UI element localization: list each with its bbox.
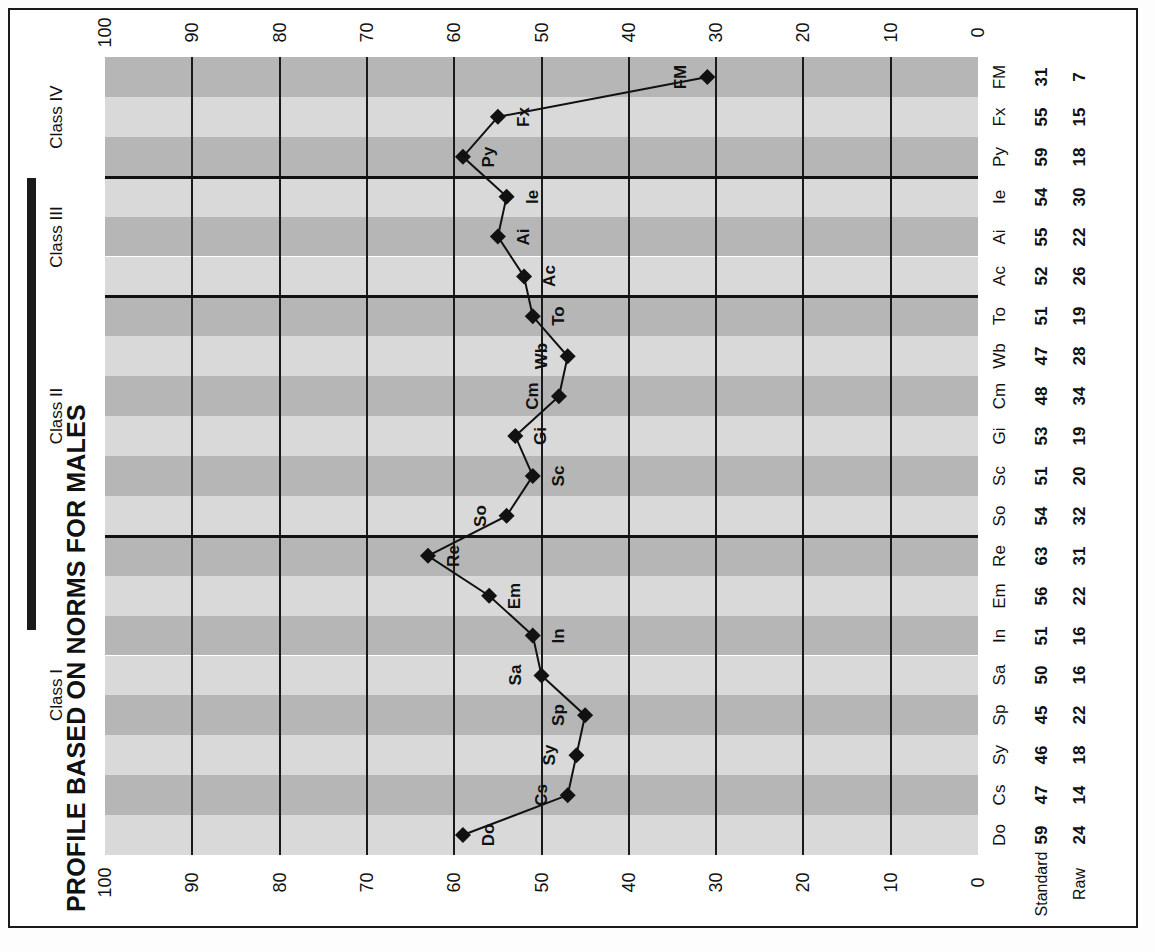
class-label-class-iii: Class III — [47, 202, 67, 272]
axis-tick-20: 20 — [793, 13, 814, 53]
point-label-fm: FM — [671, 63, 691, 91]
scale-raw-fx: 15 — [1070, 97, 1090, 137]
scale-std-in: 51 — [1032, 616, 1052, 656]
scale-raw-ac: 26 — [1070, 256, 1090, 296]
axis-tick-80: 80 — [269, 13, 290, 53]
page-title: PROFILE BASED ON NORMS FOR MALES — [62, 442, 102, 912]
scale-name-cm: Cm — [990, 376, 1010, 416]
scale-std-so: 54 — [1032, 496, 1052, 536]
scale-raw-sy: 18 — [1070, 735, 1090, 775]
axis-tick-50: 50 — [531, 13, 552, 53]
point-label-gi: Gi — [531, 422, 551, 450]
scale-std-sy: 46 — [1032, 735, 1052, 775]
scale-name-gi: Gi — [990, 416, 1010, 456]
point-label-py: Py — [479, 143, 499, 171]
marker-so — [499, 508, 515, 524]
scale-raw-py: 18 — [1070, 137, 1090, 177]
axis-tick-100: 100 — [95, 863, 116, 903]
scale-name-cs: Cs — [990, 775, 1010, 815]
scale-std-re: 63 — [1032, 536, 1052, 576]
scale-name-fx: Fx — [990, 97, 1010, 137]
scale-name-re: Re — [990, 536, 1010, 576]
axis-tick-30: 30 — [706, 13, 727, 53]
plot-area: DoCsSySpSaInEmReSoScGiCmWbToAcAiIePyFxFM — [105, 57, 978, 855]
class-label-class-i: Class I — [47, 660, 67, 730]
point-label-wb: Wb — [532, 342, 552, 370]
marker-ac — [516, 268, 532, 284]
axis-tick-60: 60 — [444, 13, 465, 53]
point-label-re: Re — [444, 542, 464, 570]
scale-name-in: In — [990, 616, 1010, 656]
scale-name-do: Do — [990, 815, 1010, 855]
point-label-in: In — [549, 622, 569, 650]
point-label-ac: Ac — [540, 262, 560, 290]
scale-name-py: Py — [990, 137, 1010, 177]
marker-re — [420, 548, 436, 564]
point-label-em: Em — [505, 582, 525, 610]
axis-tick-10: 10 — [880, 13, 901, 53]
scale-std-ai: 55 — [1032, 217, 1052, 257]
axis-tick-70: 70 — [356, 13, 377, 53]
scale-std-sp: 45 — [1032, 695, 1052, 735]
point-label-sa: Sa — [506, 661, 526, 689]
scale-raw-re: 31 — [1070, 536, 1090, 576]
axis-tick-50: 50 — [531, 863, 552, 903]
marker-cs — [560, 787, 576, 803]
marker-sy — [568, 747, 584, 763]
scale-raw-wb: 28 — [1070, 336, 1090, 376]
chart-page: PROFILE BASED ON NORMS FOR MALES DoCsSyS… — [0, 0, 1155, 952]
scale-std-py: 59 — [1032, 137, 1052, 177]
scale-std-to: 51 — [1032, 296, 1052, 336]
scale-std-ie: 54 — [1032, 177, 1052, 217]
axis-tick-70: 70 — [356, 863, 377, 903]
point-label-ai: Ai — [514, 223, 534, 251]
axis-tick-30: 30 — [706, 863, 727, 903]
scale-std-sa: 50 — [1032, 655, 1052, 695]
scale-raw-sc: 20 — [1070, 456, 1090, 496]
scale-raw-to: 19 — [1070, 296, 1090, 336]
scale-std-fx: 55 — [1032, 97, 1052, 137]
scale-raw-so: 32 — [1070, 496, 1090, 536]
scale-name-ie: Ie — [990, 177, 1010, 217]
scale-raw-cs: 14 — [1070, 775, 1090, 815]
axis-tick-0: 0 — [968, 863, 989, 903]
point-label-cs: Cs — [532, 781, 552, 809]
scale-name-sy: Sy — [990, 735, 1010, 775]
marker-ai — [490, 229, 506, 245]
scale-name-wb: Wb — [990, 336, 1010, 376]
axis-tick-90: 90 — [182, 863, 203, 903]
scale-raw-ie: 30 — [1070, 177, 1090, 217]
scale-std-gi: 53 — [1032, 416, 1052, 456]
marker-do — [455, 827, 471, 843]
scale-std-cs: 47 — [1032, 775, 1052, 815]
scale-std-wb: 47 — [1032, 336, 1052, 376]
axis-tick-10: 10 — [880, 863, 901, 903]
class-label-class-iv: Class IV — [47, 82, 67, 152]
profile-line — [105, 57, 978, 855]
scale-std-fm: 31 — [1032, 57, 1052, 97]
scale-name-em: Em — [990, 576, 1010, 616]
scale-name-ac: Ac — [990, 256, 1010, 296]
scale-raw-ai: 22 — [1070, 217, 1090, 257]
scale-raw-sp: 22 — [1070, 695, 1090, 735]
axis-tick-100: 100 — [95, 13, 116, 53]
axis-tick-80: 80 — [269, 863, 290, 903]
row-header-raw: Raw — [1071, 839, 1089, 929]
axis-tick-60: 60 — [444, 863, 465, 903]
point-label-sp: Sp — [549, 701, 569, 729]
scale-name-sa: Sa — [990, 655, 1010, 695]
scale-std-sc: 51 — [1032, 456, 1052, 496]
scale-name-to: To — [990, 296, 1010, 336]
scale-raw-gi: 19 — [1070, 416, 1090, 456]
scale-std-cm: 48 — [1032, 376, 1052, 416]
class-label-class-ii: Class II — [47, 381, 67, 451]
axis-tick-40: 40 — [618, 863, 639, 903]
scale-name-sc: Sc — [990, 456, 1010, 496]
row-header-standard: Standard — [1033, 839, 1051, 929]
scale-name-so: So — [990, 496, 1010, 536]
axis-tick-40: 40 — [618, 13, 639, 53]
scale-std-ac: 52 — [1032, 256, 1052, 296]
point-label-so: So — [471, 502, 491, 530]
scale-raw-fm: 7 — [1070, 57, 1090, 97]
scale-name-ai: Ai — [990, 217, 1010, 257]
